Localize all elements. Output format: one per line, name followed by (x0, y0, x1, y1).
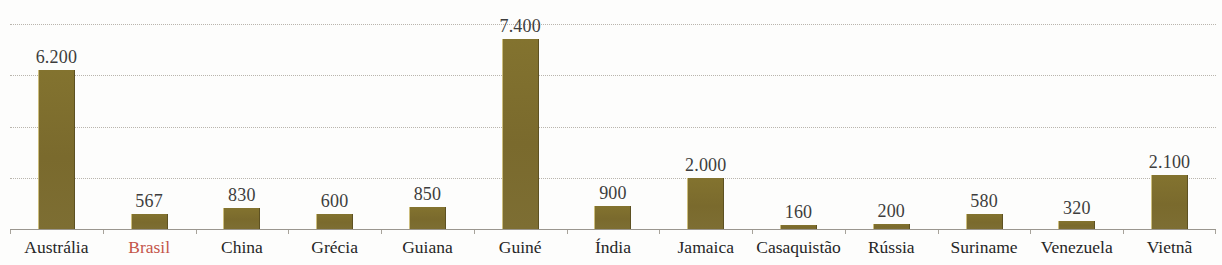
bar[interactable] (223, 208, 260, 229)
bar[interactable] (409, 207, 446, 229)
bar-series: 6.2005678306008507.4009002.0001602005803… (10, 0, 1216, 229)
bar-value-label: 830 (228, 185, 256, 205)
bar[interactable] (687, 178, 724, 229)
bar-value-label: 6.200 (36, 47, 78, 67)
category-label-brasil: Brasil (103, 232, 196, 262)
bar-slot[interactable]: 200 (845, 0, 938, 229)
bar-slot[interactable]: 830 (196, 0, 289, 229)
bar-slot[interactable]: 6.200 (10, 0, 103, 229)
bar[interactable] (966, 214, 1003, 229)
category-label-guine: Guiné (474, 232, 567, 262)
bar-value-label: 160 (785, 202, 813, 222)
bar-value-label: 7.400 (499, 16, 541, 36)
bar[interactable] (38, 70, 75, 229)
bar[interactable] (316, 214, 353, 229)
category-label-china: China (196, 232, 289, 262)
bar-chart: 6.2005678306008507.4009002.0001602005803… (0, 0, 1222, 265)
x-axis-line (10, 229, 1216, 230)
bar[interactable] (1058, 221, 1095, 229)
bar[interactable] (1151, 175, 1188, 229)
bar-slot[interactable]: 900 (567, 0, 660, 229)
category-label-jamaica: Jamaica (659, 232, 752, 262)
plot-area: 6.2005678306008507.4009002.0001602005803… (0, 0, 1222, 229)
bar-slot[interactable]: 580 (938, 0, 1031, 229)
bar-slot[interactable]: 850 (381, 0, 474, 229)
bar-value-label: 850 (414, 184, 442, 204)
bar-value-label: 200 (877, 201, 905, 221)
category-label-vietna: Vietnã (1123, 232, 1216, 262)
bar-value-label: 567 (135, 191, 163, 211)
category-label-australia: Austrália (10, 232, 103, 262)
category-labels: AustráliaBrasilChinaGréciaGuianaGuinéÍnd… (10, 232, 1216, 262)
bar-value-label: 2.000 (685, 155, 727, 175)
bar-slot[interactable]: 2.100 (1123, 0, 1216, 229)
bar-slot[interactable]: 600 (288, 0, 381, 229)
bar-value-label: 900 (599, 183, 627, 203)
bar-slot[interactable]: 567 (103, 0, 196, 229)
category-label-venezuela: Venezuela (1030, 232, 1123, 262)
category-label-casaquistao: Casaquistão (752, 232, 845, 262)
category-label-guiana: Guiana (381, 232, 474, 262)
bar-slot[interactable]: 2.000 (659, 0, 752, 229)
category-label-grecia: Grécia (288, 232, 381, 262)
category-label-russia: Rússia (845, 232, 938, 262)
bar-value-label: 2.100 (1149, 152, 1191, 172)
bar-value-label: 580 (970, 191, 998, 211)
bar[interactable] (594, 206, 631, 229)
category-label-suriname: Suriname (938, 232, 1031, 262)
bar-value-label: 320 (1063, 198, 1091, 218)
bar[interactable] (502, 39, 539, 229)
bar-slot[interactable]: 160 (752, 0, 845, 229)
bar-slot[interactable]: 320 (1030, 0, 1123, 229)
bar-value-label: 600 (321, 191, 349, 211)
category-label-india: Índia (567, 232, 660, 262)
bar-slot[interactable]: 7.400 (474, 0, 567, 229)
bar[interactable] (131, 214, 168, 229)
